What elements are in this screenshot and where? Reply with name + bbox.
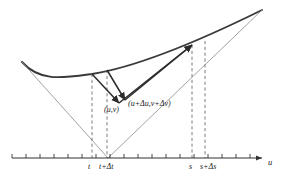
horizontal-axis	[12, 154, 262, 158]
figure-container: u t t+Δt s s+Δs (u,v) (u+Δu,v+Δv)	[0, 0, 285, 179]
axis-name-label: u	[268, 158, 272, 167]
axis-ticks	[12, 154, 250, 158]
vector-up-outer	[125, 45, 192, 100]
vector-tdt-down	[107, 70, 125, 100]
point-label-u-v: (u,v)	[104, 106, 119, 114]
tick-label-t-plus-delta-t: t+Δt	[99, 163, 114, 171]
main-curve	[22, 10, 262, 77]
tick-label-s: s	[189, 163, 192, 171]
point-label-u-plus-du-v-plus-dv: (u+Δu,v+Δv)	[128, 100, 171, 108]
tick-label-s-plus-delta-s: s+Δs	[200, 163, 216, 171]
vector-t-down	[92, 74, 119, 103]
right-chord-line	[108, 10, 262, 158]
tick-label-t: t	[88, 163, 90, 171]
diagram-canvas	[0, 0, 285, 179]
